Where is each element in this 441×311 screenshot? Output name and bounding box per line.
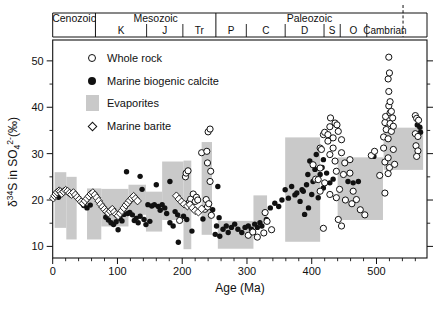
legend-label: Whole rock	[107, 52, 162, 64]
legend-item-whole-rock: Whole rock	[84, 47, 219, 70]
x-tick-label: 100	[108, 265, 126, 277]
y-tick-label: 40	[31, 101, 43, 113]
era-label: Paleozoic	[287, 12, 333, 24]
gray-box-icon	[86, 95, 99, 111]
geo-timescale-bar: CenozoicMesozoicPaleozoicKJTrPCDSOCambri…	[52, 5, 427, 37]
legend-label: Marine barite	[107, 120, 171, 132]
x-tick-label: 500	[367, 265, 385, 277]
chart-legend: Whole rock Marine biogenic calcite Evapo…	[84, 47, 219, 137]
x-axis-label: Age (Ma)	[215, 281, 264, 295]
legend-label: Marine biogenic calcite	[107, 75, 219, 87]
x-tick-label: 200	[173, 265, 191, 277]
period-label: O	[350, 25, 358, 36]
period-label: S	[329, 25, 336, 36]
legend-item-marine-biogenic-calcite: Marine biogenic calcite	[84, 70, 219, 93]
y-tick-label: 20	[31, 194, 43, 206]
legend-item-marine-barite: Marine barite	[84, 115, 219, 138]
legend-label: Evaporites	[107, 97, 159, 109]
x-axis: 0100200300400500	[50, 258, 416, 277]
period-label: P	[228, 25, 235, 36]
sulfur-isotope-chart: Age (Ma) 01002003004005001020304050Cenoz…	[0, 0, 441, 311]
open-diamond-icon	[87, 121, 97, 131]
y-tick-label: 50	[31, 55, 43, 67]
era-label: Cenozoic	[52, 12, 96, 24]
legend-item-evaporites: Evaporites	[84, 92, 219, 115]
y-tick-label: 30	[31, 148, 43, 160]
era-label: Mesozoic	[133, 12, 177, 24]
x-tick-label: 300	[238, 265, 256, 277]
period-label: Tr	[195, 25, 205, 36]
y-axis-label: δ34S in SO42-(‰)	[5, 117, 22, 207]
y-tick-label: 10	[31, 240, 43, 252]
chart-canvas: Age (Ma) 01002003004005001020304050Cenoz…	[0, 0, 441, 311]
x-tick-label: 400	[303, 265, 321, 277]
filled-circle-icon	[88, 77, 96, 85]
period-label: D	[301, 25, 308, 36]
open-circle-icon	[88, 54, 96, 62]
period-label: Cambrian	[363, 25, 406, 36]
period-label: J	[162, 25, 167, 36]
period-label: K	[118, 25, 125, 36]
x-tick-label: 0	[50, 265, 56, 277]
period-label: C	[262, 25, 269, 36]
